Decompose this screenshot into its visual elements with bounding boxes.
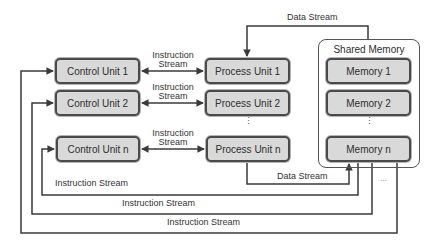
memory-modules-ellipsis: ⋮: [365, 120, 371, 123]
label-line-2: Stream: [146, 138, 200, 147]
instruction-stream-label-1: Instruction Stream: [146, 51, 200, 69]
label-line-2: Stream: [146, 60, 200, 69]
memory-1: Memory 1: [326, 58, 411, 84]
control-unit-1: Control Unit 1: [55, 58, 140, 84]
data-stream-label-bottom: Data Stream: [277, 172, 328, 181]
instruction-stream-return-label-2: Instruction Stream: [122, 199, 195, 208]
process-unit-n: Process Unit n: [206, 136, 290, 162]
instruction-stream-label-n: Instruction Stream: [146, 129, 200, 147]
memory-n: Memory n: [326, 136, 411, 162]
control-unit-n: Control Unit n: [56, 136, 140, 162]
instruction-stream-label-2: Instruction Stream: [146, 83, 200, 101]
control-unit-2: Control Unit 2: [55, 90, 140, 116]
process-unit-1: Process Unit 1: [205, 58, 290, 84]
instruction-stream-return-label-1: Instruction Stream: [167, 218, 240, 227]
data-stream-label-top: Data Stream: [287, 13, 338, 22]
instruction-stream-return-label-n: Instruction Stream: [55, 179, 128, 188]
label-line-2: Stream: [146, 92, 200, 101]
process-units-ellipsis: ⋮: [244, 120, 250, 123]
shared-memory-title: Shared Memory: [319, 44, 419, 55]
process-unit-2: Process Unit 2: [205, 90, 290, 116]
memory-2: Memory 2: [326, 90, 411, 116]
instruction-lines-ellipsis: ...: [380, 174, 387, 183]
